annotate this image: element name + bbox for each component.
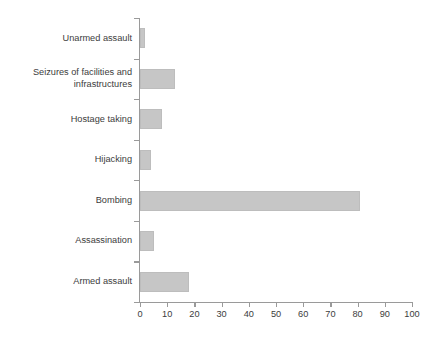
y-axis-category-labels: Unarmed assault Seizures of facilities a… (0, 18, 133, 302)
bar-row-armed-assault (140, 261, 412, 302)
x-axis-tick-label-30: 30 (216, 309, 226, 319)
bar-row-unarmed-assault (140, 18, 412, 59)
x-axis-tick-label-20: 20 (189, 309, 199, 319)
x-axis-tick-50 (276, 302, 277, 307)
y-axis-label-hijacking: Hijacking (0, 140, 133, 181)
y-axis-tick-5 (134, 221, 140, 222)
x-axis-tick-80 (358, 302, 359, 307)
x-axis-tick-label-0: 0 (137, 309, 142, 319)
y-axis-tick-3 (134, 140, 140, 141)
x-axis-tick-70 (330, 302, 331, 307)
y-axis-tick-6 (134, 261, 140, 262)
y-axis-tick-1 (134, 59, 140, 60)
x-axis-tick-60 (303, 302, 304, 307)
plot-area (140, 18, 412, 302)
bar-row-hijacking (140, 140, 412, 181)
y-axis-label-seizures: Seizures of facilities and infrastructur… (0, 59, 133, 100)
bar-hijacking[interactable] (140, 150, 151, 170)
y-axis-label-hostage-taking: Hostage taking (0, 99, 133, 140)
x-axis-tick-40 (249, 302, 250, 307)
x-axis-tick-label-50: 50 (271, 309, 281, 319)
bar-row-bombing (140, 180, 412, 221)
x-axis-tick-label-10: 10 (162, 309, 172, 319)
bar-row-assassination (140, 221, 412, 262)
x-axis-tick-label-90: 90 (380, 309, 390, 319)
x-axis-tick-100 (412, 302, 413, 307)
x-axis-tick-label-40: 40 (244, 309, 254, 319)
bar-chart: Unarmed assault Seizures of facilities a… (0, 0, 440, 337)
bar-row-hostage-taking (140, 99, 412, 140)
x-axis-tick-20 (194, 302, 195, 307)
x-axis-tick-0 (140, 302, 141, 307)
y-axis-label-unarmed-assault: Unarmed assault (0, 18, 133, 59)
x-axis-tick-90 (385, 302, 386, 307)
y-axis-label-bombing: Bombing (0, 180, 133, 221)
y-axis-tick-2 (134, 99, 140, 100)
x-axis-tick-label-100: 100 (404, 309, 419, 319)
bar-unarmed-assault[interactable] (140, 28, 145, 48)
y-axis-tick-7 (134, 302, 140, 303)
y-axis-tick-4 (134, 180, 140, 181)
y-axis-tick-0 (134, 18, 140, 19)
y-axis-label-assassination: Assassination (0, 221, 133, 262)
x-axis-tick-label-80: 80 (352, 309, 362, 319)
x-axis-tick-10 (167, 302, 168, 307)
y-axis-label-armed-assault: Armed assault (0, 261, 133, 302)
bar-hostage-taking[interactable] (140, 109, 162, 129)
x-axis-tick-30 (222, 302, 223, 307)
bar-bombing[interactable] (140, 191, 360, 211)
x-axis-tick-label-70: 70 (325, 309, 335, 319)
bar-seizures[interactable] (140, 69, 175, 89)
bar-assassination[interactable] (140, 231, 154, 251)
bar-row-seizures (140, 59, 412, 100)
x-axis-tick-label-60: 60 (298, 309, 308, 319)
bar-armed-assault[interactable] (140, 272, 189, 292)
bar-rows (140, 18, 412, 302)
